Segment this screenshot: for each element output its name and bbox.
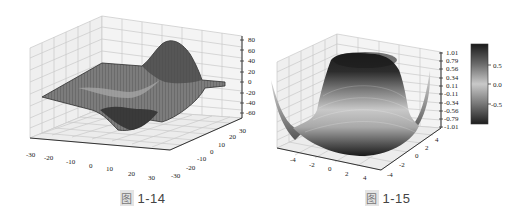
colorbar: 0.5 0.0 -0.5 — [471, 44, 503, 124]
svg-text:-30: -30 — [26, 151, 36, 159]
svg-text:-0.34: -0.34 — [444, 99, 459, 107]
surface-plot-1-15: 1.01 0.79 0.56 0.34 0.11 -0.11 -0.34 -0.… — [265, 0, 525, 216]
svg-text:0.56: 0.56 — [446, 65, 459, 73]
svg-text:-10: -10 — [197, 155, 207, 163]
figure-caption: 图1-15 — [365, 190, 411, 206]
svg-text:0: 0 — [89, 162, 93, 170]
svg-text:10: 10 — [106, 165, 114, 173]
svg-text:30: 30 — [148, 174, 156, 182]
svg-text:-0.5: -0.5 — [491, 101, 503, 109]
figure-icon: 图 — [120, 190, 134, 206]
svg-text:-30: -30 — [171, 172, 181, 180]
svg-text:-0.56: -0.56 — [444, 107, 459, 115]
svg-text:10: 10 — [218, 141, 226, 149]
svg-text:-40: -40 — [246, 99, 256, 107]
svg-text:0.11: 0.11 — [446, 82, 458, 90]
figure-caption: 图1-14 — [120, 190, 166, 206]
figure-number: 1-14 — [138, 191, 166, 206]
z-axis-ticks: 80 60 40 20 0 -20 -40 -60 — [246, 36, 256, 117]
svg-text:-20: -20 — [44, 154, 54, 162]
svg-text:1.01: 1.01 — [446, 49, 459, 57]
svg-text:0: 0 — [415, 152, 419, 160]
svg-text:0: 0 — [210, 148, 214, 156]
svg-text:20: 20 — [248, 68, 256, 76]
svg-text:-1.01: -1.01 — [444, 123, 459, 131]
svg-text:0.5: 0.5 — [493, 62, 502, 70]
figure-icon: 图 — [365, 190, 379, 206]
svg-text:-10: -10 — [66, 158, 76, 166]
svg-text:-4: -4 — [387, 171, 393, 179]
svg-text:4: 4 — [363, 174, 367, 182]
svg-text:-0.79: -0.79 — [444, 115, 459, 123]
svg-text:80: 80 — [248, 36, 256, 44]
figure-1-14: 80 60 40 20 0 -20 -40 -60 -30 -20 -10 0 … — [0, 0, 265, 216]
svg-text:-4: -4 — [290, 156, 296, 164]
svg-text:-20: -20 — [186, 164, 196, 172]
svg-text:20: 20 — [229, 133, 237, 141]
x-axis-ticks: -30 -20 -10 0 10 20 30 — [26, 151, 156, 182]
svg-text:0.79: 0.79 — [446, 57, 459, 65]
svg-text:0: 0 — [328, 165, 332, 173]
svg-text:40: 40 — [248, 57, 256, 65]
svg-text:2: 2 — [425, 144, 429, 152]
svg-text:-2: -2 — [309, 161, 315, 169]
svg-text:0.0: 0.0 — [493, 81, 502, 89]
svg-text:2: 2 — [345, 170, 349, 178]
svg-text:-0.11: -0.11 — [444, 90, 459, 98]
svg-text:20: 20 — [128, 170, 136, 178]
svg-text:30: 30 — [239, 127, 247, 135]
svg-text:0: 0 — [248, 78, 252, 86]
svg-text:4: 4 — [435, 136, 439, 144]
z-axis-ticks: 1.01 0.79 0.56 0.34 0.11 -0.11 -0.34 -0.… — [444, 49, 459, 131]
svg-text:-2: -2 — [399, 161, 405, 169]
svg-text:-20: -20 — [246, 89, 256, 97]
figure-number: 1-15 — [383, 191, 411, 206]
svg-text:-60: -60 — [246, 109, 256, 117]
svg-text:60: 60 — [248, 47, 256, 55]
figure-1-15: 1.01 0.79 0.56 0.34 0.11 -0.11 -0.34 -0.… — [265, 0, 525, 216]
surface-plot-1-14: 80 60 40 20 0 -20 -40 -60 -30 -20 -10 0 … — [0, 0, 265, 216]
svg-text:0.34: 0.34 — [446, 74, 459, 82]
